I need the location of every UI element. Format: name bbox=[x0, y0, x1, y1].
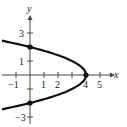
data-point bbox=[83, 72, 88, 77]
y-tick-label: −3 bbox=[15, 112, 26, 123]
y-tick-label: 1 bbox=[19, 56, 24, 67]
parabola-chart: −1124531−3 x y bbox=[0, 0, 127, 127]
x-tick-label: 5 bbox=[97, 79, 102, 90]
x-tick-label: 1 bbox=[41, 79, 46, 90]
x-tick-label: 2 bbox=[55, 79, 60, 90]
data-point bbox=[27, 44, 32, 49]
y-tick-label: 3 bbox=[19, 28, 24, 39]
y-axis-label: y bbox=[26, 3, 32, 14]
x-tick-label: −1 bbox=[8, 79, 19, 90]
y-axis-arrow-icon bbox=[28, 15, 33, 20]
x-axis-label: x bbox=[113, 69, 119, 80]
data-point bbox=[27, 100, 32, 105]
